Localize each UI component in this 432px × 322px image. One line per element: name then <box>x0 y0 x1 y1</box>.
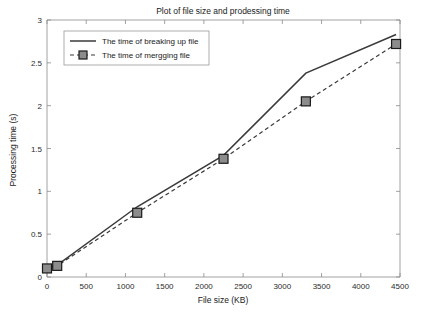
y-tick-label: 1.5 <box>31 145 43 154</box>
x-tick-label: 1500 <box>156 282 174 291</box>
x-tick-label: 2500 <box>234 282 252 291</box>
series-marker-1-1 <box>53 261 62 270</box>
x-tick-label: 2000 <box>195 282 213 291</box>
legend-label-breaking-up: The time of breaking up file <box>102 37 199 46</box>
legend-marker-mergging <box>79 51 87 59</box>
x-tick-label: 0 <box>45 282 50 291</box>
chart-figure: 050010001500200025003000350040004500 00.… <box>0 0 432 322</box>
x-tick-label: 3500 <box>313 282 331 291</box>
x-tick-label: 4500 <box>391 282 409 291</box>
series-marker-1-3 <box>219 154 228 163</box>
series-marker-1-0 <box>43 264 52 273</box>
x-axis-label: File size (KB) <box>198 295 249 305</box>
y-tick-label: 0.5 <box>31 230 43 239</box>
legend-label-mergging: The time of mergging file <box>102 51 191 60</box>
y-tick-label: 1 <box>38 187 43 196</box>
y-tick-label: 3 <box>38 16 43 25</box>
y-tick-label: 0 <box>38 273 43 282</box>
x-tick-label: 3000 <box>273 282 291 291</box>
y-axis-label: Processing time (s) <box>8 113 18 186</box>
y-tick-label: 2 <box>38 102 43 111</box>
series-marker-1-5 <box>392 39 401 48</box>
chart-title: Plot of file size and prodessing time <box>156 6 290 16</box>
x-tick-label: 1000 <box>117 282 135 291</box>
chart-canvas: 050010001500200025003000350040004500 00.… <box>0 0 432 322</box>
series-marker-1-2 <box>133 208 142 217</box>
chart-legend: The time of breaking up file The time of… <box>64 31 209 65</box>
y-tick-label: 2.5 <box>31 59 43 68</box>
x-tick-label: 500 <box>80 282 94 291</box>
series-marker-1-4 <box>301 97 310 106</box>
x-tick-label: 4000 <box>352 282 370 291</box>
